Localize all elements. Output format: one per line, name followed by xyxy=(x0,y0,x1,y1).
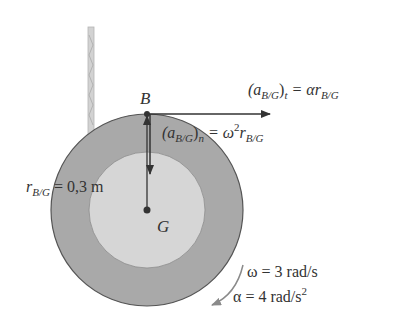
point-G xyxy=(144,207,151,214)
label-B: B xyxy=(140,89,151,108)
tangential-acceleration-label: (aB/G)t = αrB/G xyxy=(248,81,339,101)
disc-diagram: B G (aB/G)t = αrB/G (aB/G)n = ω2rB/G rB/… xyxy=(0,0,400,335)
rope xyxy=(88,27,94,137)
angular-velocity-label: ω = 3 rad/s xyxy=(247,263,318,280)
point-B xyxy=(144,111,150,117)
label-G: G xyxy=(157,217,169,236)
angular-acceleration-label: α = 4 rad/s2 xyxy=(233,285,307,305)
